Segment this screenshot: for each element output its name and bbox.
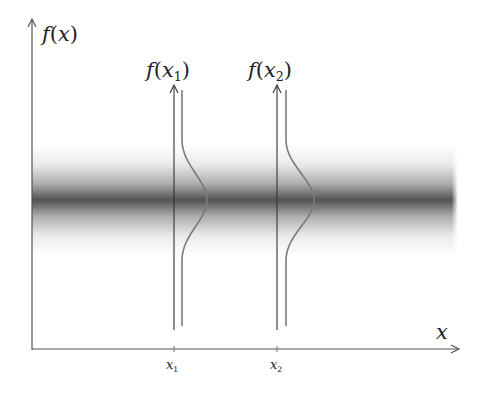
f-x1-sub: 1 <box>174 69 182 84</box>
tick-label-x2: x2 <box>270 357 282 374</box>
x-axis-label-text: x <box>436 320 448 344</box>
gaussian-process-diagram <box>0 0 488 394</box>
sample-label-f-x2: f(x2) <box>248 58 292 84</box>
y-axis-label: f(x) <box>42 22 78 46</box>
tick-label-x1: x1 <box>166 357 178 374</box>
tick-x1-sub: 1 <box>173 365 178 374</box>
f-x2-var: x <box>264 58 276 82</box>
y-axis-label-arg: x <box>58 22 70 46</box>
f-x1-fn: f <box>146 58 154 82</box>
f-x1-var: x <box>162 58 174 82</box>
uncertainty-band <box>32 145 458 255</box>
x-axis-label: x <box>436 320 448 344</box>
y-axis-label-fn: f <box>42 22 50 46</box>
f-x2-fn: f <box>248 58 256 82</box>
tick-x2-sub: 2 <box>277 365 282 374</box>
x-axis <box>32 345 459 353</box>
f-x2-sub: 2 <box>276 69 284 84</box>
sample-label-f-x1: f(x1) <box>146 58 190 84</box>
